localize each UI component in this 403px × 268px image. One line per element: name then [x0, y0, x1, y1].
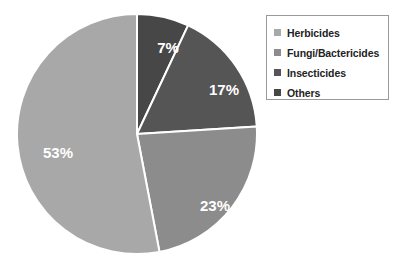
- chart-legend: Herbicides Fungi/Bactericides Insecticid…: [266, 15, 389, 100]
- pie-slice-value-label: 53%: [43, 144, 73, 161]
- pie-chart-plot-area: 7%17%23%53%: [16, 13, 258, 255]
- legend-swatch-icon: [274, 29, 281, 36]
- pie-chart-svg: 7%17%23%53%: [16, 13, 258, 255]
- legend-item-fungi-bactericides[interactable]: Fungi/Bactericides: [274, 43, 388, 62]
- legend-swatch-icon: [274, 89, 281, 96]
- legend-item-label: Insecticides: [287, 67, 346, 79]
- legend-item-label: Herbicides: [287, 27, 340, 39]
- legend-item-label: Others: [287, 87, 320, 99]
- legend-item-others[interactable]: Others: [274, 83, 388, 102]
- legend-item-herbicides[interactable]: Herbicides: [274, 23, 388, 42]
- pie-slice-value-label: 17%: [209, 81, 239, 98]
- pie-slice-value-label: 7%: [157, 39, 179, 56]
- legend-item-insecticides[interactable]: Insecticides: [274, 63, 388, 82]
- legend-item-label: Fungi/Bactericides: [287, 47, 379, 59]
- pie-chart-figure: 7%17%23%53% Herbicides Fungi/Bactericide…: [0, 0, 403, 268]
- pie-slice-value-label: 23%: [200, 197, 230, 214]
- legend-swatch-icon: [274, 49, 281, 56]
- pie-slices-group: [17, 14, 257, 254]
- legend-swatch-icon: [274, 69, 281, 76]
